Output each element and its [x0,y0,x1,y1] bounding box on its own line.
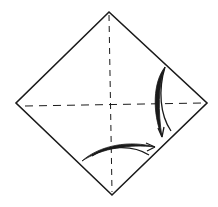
origami-diagram [0,0,218,207]
paper-square [16,12,207,195]
